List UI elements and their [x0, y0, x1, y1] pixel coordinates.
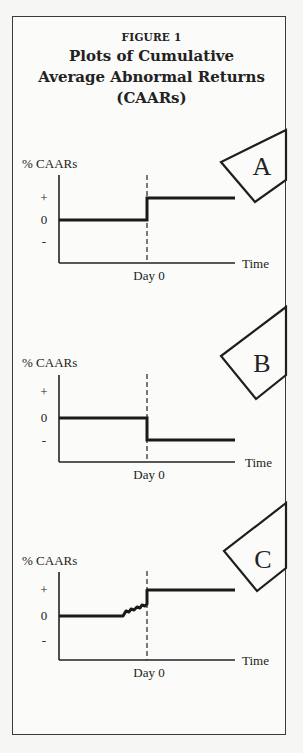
panel-b-tick-plus: + — [40, 384, 47, 399]
panel-c-letter: C — [254, 545, 271, 574]
panel-a-tick-plus: + — [40, 190, 47, 205]
panel-c-ylabel: % CAARs — [22, 553, 77, 568]
panel-b: B % CAARs + 0 - Time Day 0 — [22, 307, 286, 482]
panel-c-tick-minus: - — [42, 633, 46, 648]
panel-c-xlabel: Time — [242, 653, 269, 668]
plots-canvas: A % CAARs + 0 - Time Day 0 B % CAARs + 0… — [0, 0, 303, 753]
panel-a-tick-minus: - — [42, 234, 46, 249]
panel-b-tick-minus: - — [42, 433, 46, 448]
panel-b-xlabel: Time — [245, 455, 272, 470]
panel-b-letter: B — [253, 349, 270, 378]
panel-a-caar-line — [59, 198, 235, 220]
panel-a: A % CAARs + 0 - Time Day 0 — [22, 130, 286, 283]
panel-a-ylabel: % CAARs — [22, 156, 77, 171]
panel-a-day0-label: Day 0 — [133, 268, 164, 283]
panel-a-xlabel: Time — [242, 256, 269, 271]
panel-b-tick-zero: 0 — [41, 410, 48, 425]
panel-b-caar-line — [59, 418, 235, 440]
panel-c-tick-zero: 0 — [41, 608, 48, 623]
panel-c-tick-plus: + — [40, 582, 47, 597]
panel-a-letter: A — [253, 152, 272, 181]
panel-c-day0-label: Day 0 — [133, 665, 164, 680]
panel-c: C % CAARs + 0 - Time Day 0 — [22, 503, 286, 680]
panel-b-ylabel: % CAARs — [22, 355, 77, 370]
panel-a-tick-zero: 0 — [41, 212, 48, 227]
panel-b-day0-label: Day 0 — [133, 467, 164, 482]
